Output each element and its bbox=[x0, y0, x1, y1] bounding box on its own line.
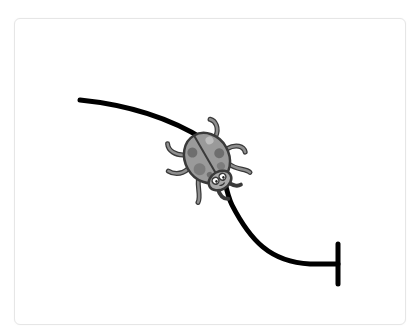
ladybug-character[interactable] bbox=[156, 112, 261, 218]
scene-canvas bbox=[0, 0, 420, 336]
